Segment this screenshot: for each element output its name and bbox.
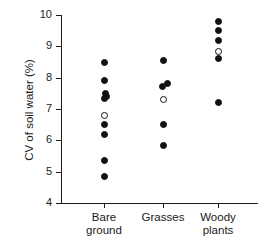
x-tick-label-woody-plants: Woodyplants	[173, 211, 263, 237]
y-tick-label-text: 7	[30, 103, 52, 114]
data-point-closed	[215, 37, 222, 44]
data-point-closed	[101, 95, 108, 102]
y-tick-label: 8	[30, 72, 52, 84]
x-axis-line	[61, 203, 258, 204]
y-tick-mark	[56, 78, 61, 79]
y-tick-mark	[56, 140, 61, 141]
y-axis-line	[61, 15, 62, 204]
y-tick-label: 4	[30, 197, 52, 209]
y-tick-mark	[56, 109, 61, 110]
data-point-closed	[101, 121, 108, 128]
data-point-closed	[215, 55, 222, 62]
y-tick-label-text: 4	[30, 197, 52, 208]
data-point-closed	[101, 59, 108, 66]
x-tick-mark	[218, 203, 219, 208]
y-tick-label: 9	[30, 40, 52, 52]
data-point-closed	[215, 18, 222, 25]
y-tick-label: 10	[30, 9, 52, 21]
y-tick-label-text: 10	[30, 9, 52, 20]
data-point-closed	[101, 157, 108, 164]
y-tick-label-text: 9	[30, 40, 52, 51]
x-tick-mark	[104, 203, 105, 208]
data-point-open	[101, 112, 108, 119]
y-tick-mark	[56, 203, 61, 204]
data-point-closed	[101, 173, 108, 180]
scatter-plot-figure: CV of soil water (%) 45678910 Bareground…	[0, 0, 264, 243]
data-point-closed	[160, 57, 167, 64]
data-point-closed	[215, 27, 222, 34]
data-point-closed	[101, 131, 108, 138]
data-point-closed	[159, 83, 166, 90]
y-tick-mark	[56, 15, 61, 16]
data-point-closed	[160, 142, 167, 149]
x-tick-mark	[163, 203, 164, 208]
y-tick-mark	[56, 46, 61, 47]
y-tick-label-text: 8	[30, 72, 52, 83]
data-point-closed	[215, 99, 222, 106]
data-point-closed	[160, 121, 167, 128]
data-point-open	[160, 96, 167, 103]
y-tick-label: 5	[30, 166, 52, 178]
data-point-open	[215, 48, 222, 55]
y-tick-mark	[56, 172, 61, 173]
y-tick-label: 6	[30, 134, 52, 146]
y-tick-label-text: 6	[30, 134, 52, 145]
y-tick-label-text: 5	[30, 166, 52, 177]
y-tick-label: 7	[30, 103, 52, 115]
data-point-closed	[101, 77, 108, 84]
